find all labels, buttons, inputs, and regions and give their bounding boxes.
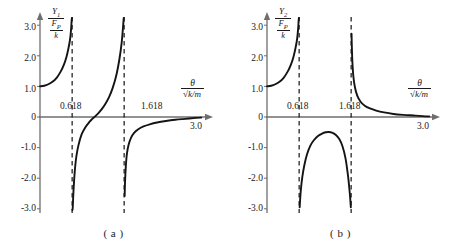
- x-tick-b-0: 0.618: [287, 101, 308, 111]
- y-tick-a-4: -1.0: [4, 142, 36, 152]
- y-tick-a-2: 1.0: [8, 84, 36, 94]
- x-tick-b-1: 1.618: [339, 101, 360, 111]
- y-tick-a-0: 3.0: [8, 22, 36, 32]
- y-tick-a-1: 2.0: [8, 53, 36, 63]
- y-tick-b-3: 0: [235, 112, 263, 122]
- caption-b: ( b ): [227, 227, 454, 239]
- x-tick-b-2: 3.0: [417, 121, 429, 131]
- x-axis-title-b: θ √k/m: [408, 78, 431, 99]
- x-axis-title-a-radicand: k/m: [188, 88, 202, 99]
- y-tick-b-6: -3.0: [231, 203, 263, 213]
- figure-container: 3.0 2.0 1.0 0 -1.0 -2.0 -3.0 0.618 1.618…: [0, 0, 454, 243]
- x-tick-a-0: 0.618: [60, 101, 81, 111]
- caption-a: ( a ): [0, 227, 227, 239]
- y-tick-b-4: -1.0: [231, 142, 263, 152]
- panel-a: 3.0 2.0 1.0 0 -1.0 -2.0 -3.0 0.618 1.618…: [0, 0, 227, 243]
- y-axis-title-a-den-den: k: [50, 30, 63, 40]
- y-tick-b-2: 1.0: [235, 84, 263, 94]
- y-axis-title-b: Y2 FP k: [275, 6, 291, 40]
- x-tick-a-2: 3.0: [190, 121, 202, 131]
- y-tick-b-1: 2.0: [235, 53, 263, 63]
- panel-b: 3.0 2.0 1.0 0 -1.0 -2.0 -3.0 0.618 1.618…: [227, 0, 454, 243]
- y-tick-a-3: 0: [8, 112, 36, 122]
- y-tick-b-5: -2.0: [231, 173, 263, 183]
- y-tick-a-5: -2.0: [4, 173, 36, 183]
- y-axis-title-b-den-sub: P: [284, 22, 288, 29]
- y-axis-title-a-den-sub: P: [57, 22, 61, 29]
- y-tick-b-0: 3.0: [235, 22, 263, 32]
- y-tick-a-6: -3.0: [4, 203, 36, 213]
- x-axis-title-b-radicand: k/m: [415, 88, 429, 99]
- x-tick-a-1: 1.618: [141, 101, 162, 111]
- y-axis-title-a: Y1 FP k: [48, 6, 64, 40]
- y-axis-title-b-den-den: k: [277, 30, 290, 40]
- y-axis-title-a-num-sub: 1: [57, 11, 60, 18]
- y-axis-title-b-num-sub: 2: [284, 11, 287, 18]
- x-axis-title-a: θ √k/m: [181, 78, 204, 99]
